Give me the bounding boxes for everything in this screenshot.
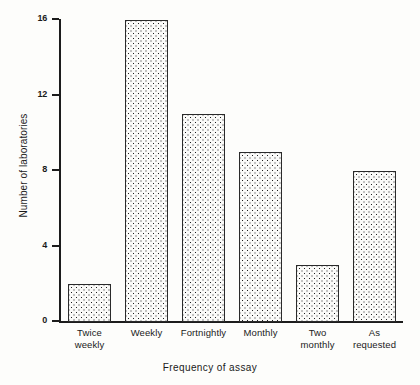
x-axis-tick-label-line: Monthly <box>232 327 289 339</box>
bar <box>125 20 168 322</box>
bar <box>182 114 225 322</box>
x-axis-tick-label: Asrequested <box>346 327 403 350</box>
y-axis-tick <box>52 18 59 20</box>
x-axis-title: Frequency of assay <box>0 362 420 373</box>
plot-area <box>61 19 403 322</box>
x-axis-tick-label-line: requested <box>346 339 403 351</box>
y-axis-tick-label: 16 <box>27 14 47 23</box>
y-axis-tick-label: 12 <box>27 90 47 99</box>
y-axis-tick <box>52 320 59 322</box>
x-axis-tick-label-line: monthly <box>289 339 346 351</box>
bar <box>296 265 339 322</box>
x-axis-tick-label: Twiceweekly <box>61 327 118 350</box>
x-axis-tick-label-line: Weekly <box>118 327 175 339</box>
bar-chart-figure: Number of laboratories 0481216 Twiceweek… <box>0 0 420 385</box>
x-axis-tick-label-line: weekly <box>61 339 118 351</box>
y-axis-tick-label: 0 <box>27 316 47 325</box>
x-axis-tick-label-line: As <box>346 327 403 339</box>
y-axis-tick-label: 8 <box>27 165 47 174</box>
x-axis-tick-label: Weekly <box>118 327 175 339</box>
x-axis-tick-label-line: Twice <box>61 327 118 339</box>
x-axis-tick-label: Fortnightly <box>175 327 232 339</box>
x-axis-tick-label-line: Two <box>289 327 346 339</box>
x-axis-tick-label-line: Fortnightly <box>175 327 232 339</box>
bar <box>353 171 396 322</box>
bar <box>68 284 111 322</box>
bar <box>239 152 282 322</box>
y-axis-tick <box>52 94 59 96</box>
y-axis-tick <box>52 169 59 171</box>
x-axis-tick-label: Twomonthly <box>289 327 346 350</box>
y-axis-tick-label: 4 <box>27 241 47 250</box>
x-axis-tick-label: Monthly <box>232 327 289 339</box>
y-axis-tick <box>52 245 59 247</box>
